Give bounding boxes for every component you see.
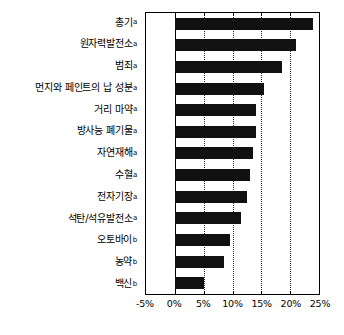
- horizontal-bar-chart: 총기a원자력발전소a범죄a먼지와 페인트의 납 성분a거리 마약a방사능 폐기물…: [0, 0, 344, 335]
- x-tick-label: 25%: [310, 298, 331, 309]
- category-label-text: 방사능 폐기물: [77, 126, 133, 137]
- x-tick-label: 15%: [251, 298, 272, 309]
- category-label: 석탄/석유발전소a: [0, 208, 141, 230]
- bar-row: [146, 35, 319, 57]
- category-footnote-marker: a: [133, 85, 137, 92]
- category-label: 오토바이b: [0, 230, 141, 252]
- bar-row: [146, 251, 319, 273]
- category-label-text: 거리 마약: [94, 105, 132, 116]
- category-label: 총기a: [0, 12, 141, 34]
- category-label: 전자기장a: [0, 186, 141, 208]
- bar-row: [146, 186, 319, 208]
- category-label-text: 자연재해: [97, 148, 132, 159]
- category-footnote-marker: a: [133, 150, 137, 157]
- category-label-text: 농약: [115, 257, 133, 268]
- category-label: 방사능 폐기물a: [0, 121, 141, 143]
- bar-row: [146, 272, 319, 294]
- category-footnote-marker: a: [133, 128, 137, 135]
- bar-row: [146, 13, 319, 35]
- bar-row: [146, 78, 319, 100]
- category-label-text: 총기: [115, 18, 133, 29]
- bar: [175, 277, 204, 289]
- bar-series: [146, 13, 319, 294]
- category-label-text: 먼지와 페인트의 납 성분: [35, 83, 132, 94]
- category-label-text: 백신: [115, 279, 133, 290]
- category-footnote-marker: b: [133, 281, 137, 288]
- category-label-text: 수혈: [115, 170, 133, 181]
- category-label-text: 오토바이: [97, 235, 132, 246]
- bar: [175, 212, 241, 224]
- category-label-text: 원자력발전소: [80, 39, 133, 50]
- bar-row: [146, 164, 319, 186]
- bar: [175, 39, 296, 51]
- bar: [175, 191, 247, 203]
- category-footnote-marker: a: [133, 215, 137, 222]
- category-label: 먼지와 페인트의 납 성분a: [0, 77, 141, 99]
- bar: [175, 61, 282, 73]
- bar-row: [146, 143, 319, 165]
- plot-inner: [146, 13, 319, 294]
- bar-row: [146, 207, 319, 229]
- bar: [175, 18, 313, 30]
- category-footnote-marker: b: [133, 237, 137, 244]
- category-footnote-marker: a: [133, 172, 137, 179]
- category-footnote-marker: a: [133, 19, 137, 26]
- category-label-text: 석탄/석유발전소: [68, 214, 133, 225]
- x-tick-label: 20%: [281, 298, 302, 309]
- bar-row: [146, 56, 319, 78]
- bar: [175, 83, 264, 95]
- bar-row: [146, 121, 319, 143]
- x-tick-label: -5%: [136, 298, 154, 309]
- bar: [175, 169, 250, 181]
- category-label: 수혈a: [0, 164, 141, 186]
- bar-row: [146, 99, 319, 121]
- category-label: 거리 마약a: [0, 99, 141, 121]
- bar-row: [146, 229, 319, 251]
- category-label-column: 총기a원자력발전소a범죄a먼지와 페인트의 납 성분a거리 마약a방사능 폐기물…: [0, 12, 141, 295]
- category-label: 백신b: [0, 273, 141, 295]
- category-label-text: 전자기장: [97, 192, 132, 203]
- x-axis-tick-labels: -5%0%5%10%15%20%25%: [145, 298, 320, 314]
- category-label: 범죄a: [0, 56, 141, 78]
- category-footnote-marker: a: [133, 106, 137, 113]
- bar: [175, 234, 230, 246]
- bar: [175, 256, 224, 268]
- bar: [175, 147, 253, 159]
- category-footnote-marker: a: [133, 194, 137, 201]
- category-label: 원자력발전소a: [0, 34, 141, 56]
- category-label-text: 범죄: [115, 61, 133, 72]
- category-footnote-marker: a: [133, 63, 137, 70]
- bar: [175, 104, 256, 116]
- category-footnote-marker: b: [133, 259, 137, 266]
- x-tick-label: 10%: [222, 298, 243, 309]
- plot-area: [145, 12, 320, 295]
- x-tick-label: 5%: [196, 298, 211, 309]
- x-tick-label: 0%: [167, 298, 182, 309]
- category-footnote-marker: a: [133, 41, 137, 48]
- category-label: 자연재해a: [0, 143, 141, 165]
- category-label: 농약b: [0, 251, 141, 273]
- bar: [175, 126, 256, 138]
